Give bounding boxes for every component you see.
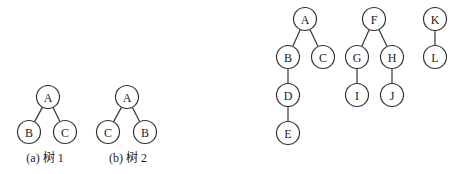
tree-node-G: G [346, 46, 369, 69]
tree-tree2: ACB(b) 树 2 [97, 86, 157, 166]
tree-node-A: A [116, 86, 139, 109]
node-label: J [390, 89, 395, 103]
tree-node-C: C [97, 121, 120, 144]
tree-node-K: K [424, 8, 447, 31]
tree-forest-tree-F: FGHIJ [346, 8, 404, 107]
tree-forest-tree-K: KL [424, 8, 447, 69]
node-label: A [123, 91, 132, 105]
tree-node-H: H [381, 46, 404, 69]
tree-node-B: B [277, 46, 300, 69]
node-label: H [388, 51, 397, 65]
tree-node-J: J [381, 84, 404, 107]
node-label: C [104, 126, 112, 140]
tree-node-E: E [277, 122, 300, 145]
edge-A-B [293, 29, 301, 46]
node-label: E [284, 127, 291, 141]
node-label: A [301, 13, 310, 27]
tree-node-D: D [277, 84, 300, 107]
node-label: B [25, 126, 33, 140]
node-label: I [355, 89, 359, 103]
edge-F-H [379, 29, 387, 46]
node-label: A [44, 91, 53, 105]
edge-A-C [310, 29, 318, 46]
tree-node-A: A [294, 8, 317, 31]
node-label: C [61, 126, 69, 140]
tree-forest-tree-A: ABCDE [277, 8, 335, 145]
tree-tree1: ABC(a) 树 1 [18, 86, 77, 166]
tree-node-C: C [312, 46, 335, 69]
edge-A-C [53, 107, 60, 121]
node-label: B [141, 126, 149, 140]
edge-A-B [132, 107, 139, 122]
node-label: B [284, 51, 292, 65]
tree-node-B: B [134, 121, 157, 144]
tree-caption: (b) 树 2 [109, 150, 147, 165]
tree-node-C: C [54, 121, 77, 144]
tree-caption: (a) 树 1 [26, 150, 63, 165]
node-label: L [431, 51, 438, 65]
node-label: K [431, 13, 440, 27]
tree-node-L: L [424, 46, 447, 69]
node-label: C [319, 51, 327, 65]
edge-A-C [113, 107, 121, 122]
node-label: G [353, 51, 362, 65]
tree-node-I: I [346, 84, 369, 107]
edge-A-B [34, 107, 42, 122]
node-label: D [284, 89, 293, 103]
tree-node-A: A [37, 86, 60, 109]
tree-node-B: B [18, 121, 41, 144]
edge-F-G [362, 29, 370, 46]
node-label: F [371, 13, 378, 27]
tree-diagram-canvas: ABC(a) 树 1ACB(b) 树 2ABCDEFGHIJKL [0, 0, 465, 174]
tree-node-F: F [363, 8, 386, 31]
